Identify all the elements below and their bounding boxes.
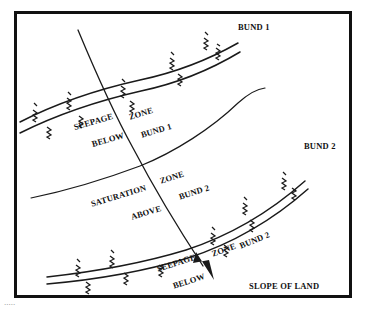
label-slope-of-land: SLOPE OF LAND — [249, 281, 319, 291]
label-bund-1-top: BUND 1 — [238, 22, 270, 32]
figure-root: BUND 1 BUND 2 SEEPAGE ZONE BELOW BUND 1 … — [0, 0, 371, 315]
caption-clipped-strip: ..... — [0, 303, 371, 315]
caption-text: ..... — [4, 303, 15, 307]
label-bund-2-right: BUND 2 — [304, 141, 336, 151]
